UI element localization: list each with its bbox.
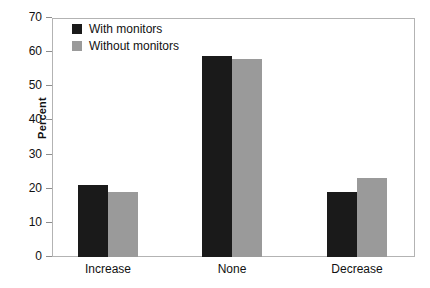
legend-swatch-icon: [72, 24, 82, 34]
y-axis-tick-label: 20: [8, 180, 42, 196]
y-axis-tick-label: 10: [8, 214, 42, 230]
legend-item: Without monitors: [72, 38, 179, 53]
y-axis-tick-label: 0: [8, 248, 42, 264]
legend: With monitorsWithout monitors: [72, 21, 179, 55]
x-axis-label-increase: Increase: [85, 262, 131, 276]
y-axis-tick-label: 70: [8, 9, 42, 25]
legend-swatch-icon: [72, 41, 82, 51]
y-axis-tick-label: 30: [8, 146, 42, 162]
x-axis-label-decrease: Decrease: [331, 262, 382, 276]
y-axis-tick-label: 40: [8, 111, 42, 127]
bar-chart: Percent 010203040506070 IncreaseNoneDecr…: [0, 0, 430, 288]
legend-label: Without monitors: [89, 39, 179, 53]
y-axis-tick-label: 60: [8, 43, 42, 59]
y-axis-tick-label: 50: [8, 77, 42, 93]
legend-label: With monitors: [89, 22, 162, 36]
legend-item: With monitors: [72, 21, 179, 36]
x-axis-label-none: None: [218, 262, 247, 276]
